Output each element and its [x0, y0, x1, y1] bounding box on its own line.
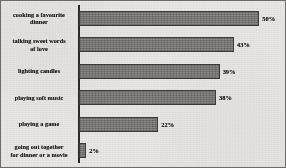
bar-track: 38%	[79, 85, 281, 112]
bar-row: playing soft music 38%	[5, 85, 281, 112]
bar-chart: cooking a favourite dinner 50% talking s…	[0, 0, 286, 168]
bar-playing-a-game	[79, 117, 158, 132]
bar-track: 2%	[79, 138, 281, 165]
bar-track: 39%	[79, 58, 281, 85]
category-label: lighting candles	[5, 67, 77, 75]
category-label: playing soft music	[5, 94, 77, 102]
bar-lighting-candles	[79, 64, 220, 79]
bar-value-label: 43%	[237, 41, 250, 48]
bar-going-out-together-for-dinner-or-a-movie	[79, 143, 86, 158]
bar-value-label: 2%	[89, 147, 99, 154]
bar-value-label: 50%	[262, 15, 275, 22]
bar-cooking-a-favourite-dinner	[79, 11, 259, 26]
bar-talking-sweet-words-of-love	[79, 37, 234, 52]
bar-row: lighting candles 39%	[5, 58, 281, 85]
bar-row: playing a game 22%	[5, 111, 281, 138]
bar-value-label: 38%	[219, 94, 232, 101]
category-label: playing a game	[5, 120, 77, 128]
bar-value-label: 22%	[161, 121, 174, 128]
bar-row: cooking a favourite dinner 50%	[5, 5, 281, 32]
bar-row: going out together for dinner or a movie…	[5, 138, 281, 165]
bar-track: 43%	[79, 32, 281, 59]
plot-area: cooking a favourite dinner 50% talking s…	[5, 5, 281, 163]
bar-row: talking sweet words of love 43%	[5, 32, 281, 59]
category-label: going out together for dinner or a movie	[5, 143, 77, 158]
bar-track: 50%	[79, 5, 281, 32]
bar-value-label: 39%	[223, 68, 236, 75]
bar-playing-soft-music	[79, 90, 216, 105]
category-label: cooking a favourite dinner	[5, 11, 77, 26]
bar-track: 22%	[79, 111, 281, 138]
category-label: talking sweet words of love	[5, 37, 77, 52]
